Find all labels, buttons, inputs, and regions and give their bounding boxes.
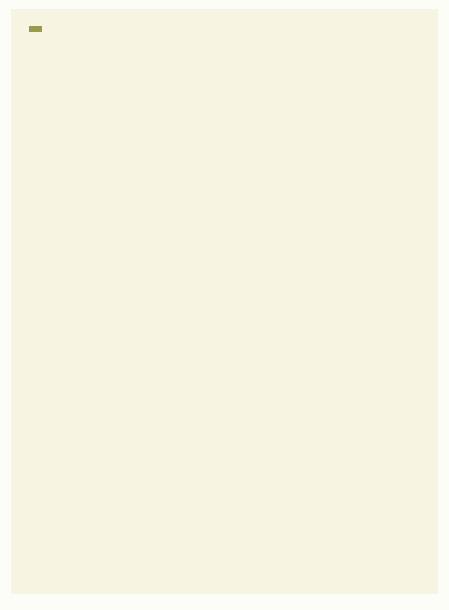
figure-tag (29, 26, 42, 32)
figure-panel (11, 9, 438, 594)
figure-header (29, 26, 424, 44)
x-axis (11, 491, 438, 525)
chart-plot-area (11, 105, 438, 495)
